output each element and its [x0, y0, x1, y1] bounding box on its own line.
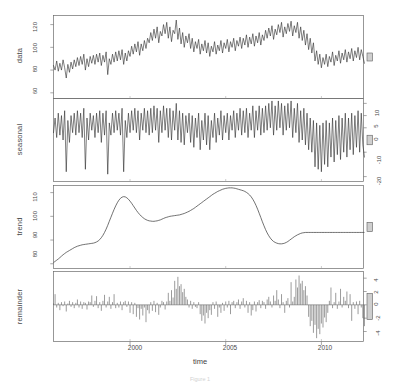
series-remainder — [54, 276, 365, 339]
panel-frame-remainder — [54, 272, 364, 342]
scale-bars — [367, 53, 373, 320]
stl-decomposition-figure: data 120 100 80 60 seasonal 10 5 0 -10 -… — [0, 0, 395, 388]
series-seasonal — [54, 101, 365, 174]
scale-bar-trend — [367, 222, 373, 231]
scale-bar-data — [367, 53, 373, 61]
axis-tickmarks — [50, 25, 366, 345]
series-trend — [54, 188, 365, 263]
series-line-seasonal — [54, 101, 365, 174]
scale-bar-remainder — [367, 294, 373, 320]
series-line-data — [54, 20, 365, 78]
plot-canvas — [0, 0, 395, 388]
series-line-trend — [54, 188, 365, 263]
panel-frames — [54, 16, 364, 342]
scale-bar-seasonal — [367, 135, 373, 145]
series-data — [54, 20, 365, 78]
